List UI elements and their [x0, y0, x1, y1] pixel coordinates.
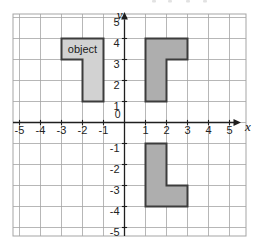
x-tick-label: 1 — [142, 124, 148, 136]
image-lower-right-shape — [146, 144, 188, 207]
x-axis-arrow — [234, 119, 242, 126]
object-shape-label: object — [68, 43, 97, 55]
y-axis-label: y — [115, 7, 123, 22]
x-tick-label: -4 — [36, 124, 46, 136]
y-tick-label: 3 — [113, 58, 119, 70]
y-tick-label: -5 — [110, 226, 120, 238]
figure: -5-4-3-2-11234554321-1-2-3-4-50xyobject — [0, 0, 254, 242]
tick-labels: -5-4-3-2-11234554321-1-2-3-4-5 — [15, 16, 233, 238]
x-axis-label: x — [244, 119, 251, 134]
axes — [13, 20, 234, 237]
y-tick-label: -1 — [110, 142, 120, 154]
x-tick-label: -1 — [99, 124, 109, 136]
image-upper-right-shape — [146, 39, 188, 102]
x-tick-label: -3 — [57, 124, 67, 136]
y-tick-label: 2 — [113, 79, 119, 91]
x-tick-label: 3 — [184, 124, 190, 136]
y-tick-label: -4 — [110, 205, 120, 217]
y-tick-label: -3 — [110, 184, 120, 196]
x-tick-label: -5 — [15, 124, 25, 136]
x-tick-label: 2 — [163, 124, 169, 136]
y-tick-label: 4 — [113, 37, 119, 49]
cropped-text-remnant — [152, 0, 207, 3]
x-tick-label: 5 — [226, 124, 232, 136]
x-tick-label: -2 — [78, 124, 88, 136]
x-tick-label: 4 — [205, 124, 211, 136]
origin-label: 0 — [115, 108, 121, 120]
y-tick-label: -2 — [110, 163, 120, 175]
coordinate-plane: -5-4-3-2-11234554321-1-2-3-4-50xyobject — [0, 0, 254, 242]
